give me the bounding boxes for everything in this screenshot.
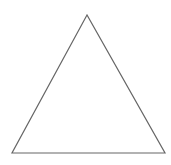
background [0,0,171,165]
diagram-canvas [0,0,171,165]
